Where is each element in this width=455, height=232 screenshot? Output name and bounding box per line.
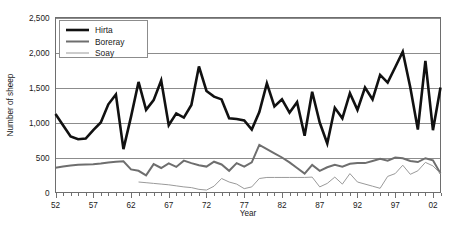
x-axis-tick-label: 62 [126, 201, 136, 210]
sheep-population-line-chart: 05001,0001,5002,0002,500 525762677277828… [0, 0, 455, 232]
y-axis-tick-label: 500 [36, 154, 50, 163]
legend-label-boreray: Boreray [95, 37, 125, 47]
y-axis-tick-label: 1,000 [29, 119, 50, 128]
x-axis-tick-label: 92 [353, 201, 363, 210]
y-axis-tick-label: 1,500 [29, 84, 50, 93]
chart-legend: HirtaBoreraySoay [60, 21, 148, 59]
chart-page: 05001,0001,5002,0002,500 525762677277828… [0, 0, 455, 232]
x-axis-tick-label: 97 [391, 201, 401, 210]
x-axis-tick-label: 52 [51, 201, 61, 210]
x-axis-tick-label: 87 [315, 201, 325, 210]
x-axis-tick-label: 82 [277, 201, 287, 210]
x-axis-tick-label: 57 [89, 201, 99, 210]
x-axis-title: Year [240, 209, 257, 218]
x-axis-tick-label: 02 [428, 201, 438, 210]
x-axis-tick-label: 67 [164, 201, 174, 210]
y-axis-tick-label: 2,500 [29, 14, 50, 23]
y-axis-tick-label: 2,000 [29, 49, 50, 58]
legend-label-hirta: Hirta [95, 25, 113, 35]
x-axis-tick-label: 72 [202, 201, 212, 210]
legend-label-soay: Soay [95, 48, 115, 58]
y-axis-title: Number of sheep [6, 73, 15, 136]
y-axis-tick-label: 0 [45, 189, 50, 198]
